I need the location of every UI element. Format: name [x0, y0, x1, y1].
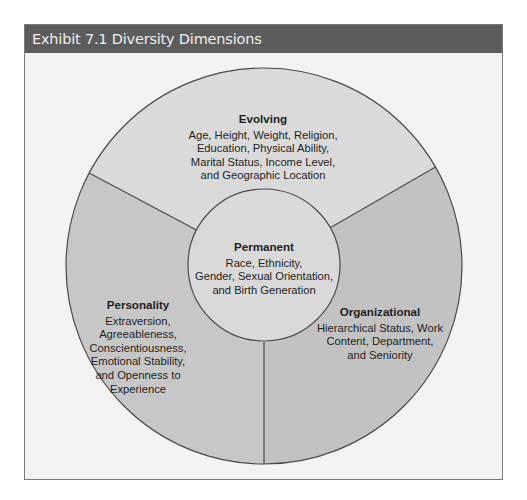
label-permanent: Permanent Race, Ethnicity, Gender, Sexua… [188, 240, 340, 297]
personality-line: and Openness to [68, 369, 208, 383]
permanent-title: Permanent [188, 240, 340, 254]
evolving-title: Evolving [163, 112, 363, 126]
evolving-line: Marital Status, Income Level, [163, 156, 363, 170]
organizational-line: Content, Department, [310, 335, 450, 349]
organizational-line: and Seniority [310, 349, 450, 363]
evolving-line: and Geographic Location [163, 169, 363, 183]
evolving-line: Age, Height, Weight, Religion, [163, 129, 363, 143]
permanent-line: and Birth Generation [188, 284, 340, 298]
organizational-line: Hierarchical Status, Work [310, 322, 450, 336]
organizational-title: Organizational [310, 305, 450, 319]
personality-line: Extraversion, [68, 315, 208, 329]
label-personality: Personality Extraversion, Agreeableness,… [68, 298, 208, 396]
label-evolving: Evolving Age, Height, Weight, Religion, … [163, 112, 363, 183]
label-organizational: Organizational Hierarchical Status, Work… [310, 305, 450, 362]
personality-line: Conscientiousness, [68, 342, 208, 356]
personality-line: Emotional Stability, [68, 355, 208, 369]
permanent-line: Race, Ethnicity, [188, 257, 340, 271]
evolving-line: Education, Physical Ability, [163, 142, 363, 156]
permanent-line: Gender, Sexual Orientation, [188, 270, 340, 284]
personality-line: Experience [68, 383, 208, 397]
personality-title: Personality [68, 298, 208, 312]
personality-line: Agreeableness, [68, 328, 208, 342]
